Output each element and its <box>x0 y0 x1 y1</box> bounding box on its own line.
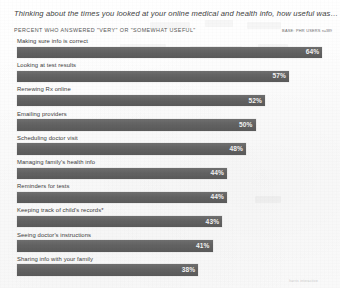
bar-value-label: 52% <box>249 97 263 104</box>
bar-value-label: 38% <box>182 267 196 274</box>
bar-category-label: Scheduling doctor visit <box>17 135 78 141</box>
bar-value-label: 44% <box>210 170 224 177</box>
bar-segment: 38% <box>17 264 198 276</box>
bar-value-label: 50% <box>239 122 253 129</box>
bar-category-label: Managing family's health info <box>17 159 95 165</box>
bar-segment: 64% <box>17 47 322 59</box>
bar-category-label: Renewing Rx online <box>17 86 71 92</box>
bar-value-label: 57% <box>272 73 286 80</box>
bar-row: Keeping track of child's records*43% <box>0 207 340 231</box>
bar-row: Looking at test results57% <box>0 62 340 86</box>
source-watermark: harris interactive <box>289 279 318 283</box>
base-note-label: BASE: PHR USERS <box>282 28 321 33</box>
bar-value-label: 44% <box>210 194 224 201</box>
bar-segment: 41% <box>17 240 213 252</box>
bar-segment: 57% <box>17 71 289 83</box>
chart-subtitle: PERCENT WHO ANSWERED "VERY" OR "SOMEWHAT… <box>14 27 196 33</box>
bar-category-label: Reminders for tests <box>17 183 70 189</box>
bar-segment: 44% <box>17 168 227 180</box>
bar-row: Emailing providers50% <box>0 111 340 135</box>
bar-category-label: Sharing info with your family <box>17 256 93 262</box>
bar-category-label: Looking at test results <box>17 62 76 68</box>
bar-segment: 50% <box>17 119 256 131</box>
bar-value-label: 64% <box>306 49 320 56</box>
bar-chart-plot: Making sure info is correct64%Looking at… <box>0 38 340 286</box>
bar-row: Sharing info with your family38% <box>0 256 340 280</box>
bar-category-label: Making sure info is correct <box>17 38 88 44</box>
bar-segment: 52% <box>17 95 265 107</box>
bar-value-label: 43% <box>206 218 220 225</box>
bar-category-label: Keeping track of child's records* <box>17 207 104 213</box>
bar-category-label: Emailing providers <box>17 111 67 117</box>
chart-title: Thinking about the times you looked at y… <box>14 9 338 18</box>
bar-row: Making sure info is correct64% <box>0 38 340 62</box>
bar-value-label: 41% <box>196 243 210 250</box>
bar-row: Renewing Rx online52% <box>0 86 340 110</box>
bar-value-label: 48% <box>229 146 243 153</box>
bar-segment: 44% <box>17 192 227 204</box>
bar-row: Seeing doctor's instructions41% <box>0 232 340 256</box>
bar-row: Reminders for tests44% <box>0 183 340 207</box>
slide-canvas: Thinking about the times you looked at y… <box>0 0 340 288</box>
bar-category-label: Seeing doctor's instructions <box>17 232 91 238</box>
base-note: BASE: PHR USERS n=389 <box>282 28 332 33</box>
bar-segment: 43% <box>17 216 222 228</box>
bar-row: Scheduling doctor visit48% <box>0 135 340 159</box>
bar-row: Managing family's health info44% <box>0 159 340 183</box>
base-note-count: n=389 <box>322 29 332 33</box>
bar-segment: 48% <box>17 143 246 155</box>
